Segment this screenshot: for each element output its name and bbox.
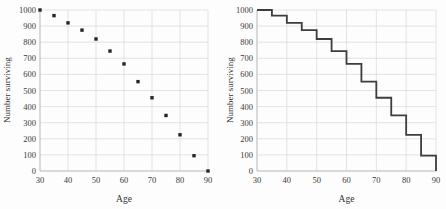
- step-survival-chart: 3040506070809001002003004005006007008009…: [223, 0, 446, 209]
- svg-text:30: 30: [36, 175, 45, 185]
- y-axis-tick-labels: 01002003004005006007008009001000: [19, 5, 36, 176]
- svg-text:900: 900: [240, 21, 253, 31]
- svg-text:80: 80: [176, 175, 185, 185]
- svg-text:400: 400: [240, 102, 253, 112]
- svg-text:30: 30: [253, 175, 262, 185]
- svg-text:40: 40: [283, 175, 292, 185]
- svg-text:300: 300: [240, 118, 253, 128]
- svg-text:100: 100: [240, 150, 253, 160]
- x-axis-tick-labels: 30405060708090: [253, 175, 441, 185]
- svg-text:800: 800: [240, 37, 253, 47]
- svg-text:60: 60: [342, 175, 351, 185]
- svg-text:90: 90: [204, 175, 213, 185]
- svg-text:600: 600: [23, 69, 36, 79]
- survival-figure-canvas: 3040506070809001002003004005006007008009…: [0, 0, 446, 209]
- svg-text:70: 70: [148, 175, 157, 185]
- scatter-survival-chart: 3040506070809001002003004005006007008009…: [0, 0, 223, 209]
- scatter-plot-area: 3040506070809001002003004005006007008009…: [0, 0, 223, 209]
- svg-text:300: 300: [23, 118, 36, 128]
- svg-text:40: 40: [64, 175, 73, 185]
- svg-text:100: 100: [23, 150, 36, 160]
- gridlines: [40, 10, 208, 171]
- svg-text:200: 200: [240, 134, 253, 144]
- svg-text:500: 500: [240, 86, 253, 96]
- step-x-axis-label: Age: [257, 194, 436, 204]
- scatter-y-axis-label: Number surviving: [2, 57, 12, 123]
- svg-text:600: 600: [240, 69, 253, 79]
- svg-text:400: 400: [23, 102, 36, 112]
- svg-text:0: 0: [32, 166, 36, 176]
- svg-text:1000: 1000: [236, 5, 253, 15]
- svg-text:500: 500: [23, 86, 36, 96]
- svg-text:700: 700: [240, 53, 253, 63]
- scatter-x-axis-label: Age: [40, 194, 208, 204]
- step-y-axis-label: Number surviving: [225, 57, 235, 123]
- svg-text:1000: 1000: [19, 5, 36, 15]
- gridlines: [257, 10, 436, 171]
- svg-text:800: 800: [23, 37, 36, 47]
- svg-text:200: 200: [23, 134, 36, 144]
- svg-text:70: 70: [372, 175, 381, 185]
- svg-text:50: 50: [312, 175, 321, 185]
- svg-text:60: 60: [120, 175, 129, 185]
- svg-text:50: 50: [92, 175, 101, 185]
- svg-text:0: 0: [249, 166, 253, 176]
- svg-text:700: 700: [23, 53, 36, 63]
- svg-text:80: 80: [402, 175, 411, 185]
- step-plot-area: 3040506070809001002003004005006007008009…: [223, 0, 446, 209]
- x-axis-tick-labels: 30405060708090: [36, 175, 213, 185]
- svg-text:900: 900: [23, 21, 36, 31]
- y-axis-tick-labels: 01002003004005006007008009001000: [236, 5, 253, 176]
- svg-text:90: 90: [432, 175, 441, 185]
